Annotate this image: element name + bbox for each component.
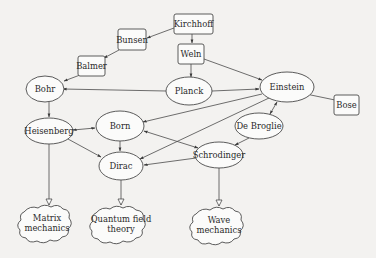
node-label-line-1: Wave bbox=[208, 215, 231, 225]
edge-heisenberg-born bbox=[73, 128, 95, 130]
node-matrix-mechanics[interactable]: Matrix mechanics bbox=[18, 205, 72, 243]
node-label: Bose bbox=[336, 100, 356, 110]
node-label: Born bbox=[110, 121, 131, 131]
edge-einstein-debroglie bbox=[270, 102, 277, 114]
physics-influence-graph: Kirchhoff Bunsen Weln Balmer Bose Bohr P… bbox=[0, 0, 376, 258]
node-label: Dirac bbox=[109, 161, 132, 171]
edge-schrodinger-dirac bbox=[144, 158, 196, 165]
node-label: Bunsen bbox=[116, 35, 148, 45]
node-label-line-2: theory bbox=[107, 224, 135, 234]
node-einstein[interactable]: Einstein bbox=[260, 72, 314, 102]
node-label-line-2: mechanics bbox=[196, 225, 241, 235]
node-label: Planck bbox=[175, 86, 204, 96]
node-label-line-1: Quantum field bbox=[91, 214, 152, 224]
node-bohr[interactable]: Bohr bbox=[26, 76, 64, 102]
node-wave-mechanics[interactable]: Wave mechanics bbox=[190, 207, 244, 245]
node-label: Kirchhoff bbox=[174, 19, 214, 29]
node-label: Schrodinger bbox=[193, 150, 246, 160]
diagram-canvas: Kirchhoff Bunsen Weln Balmer Bose Bohr P… bbox=[0, 0, 376, 258]
node-heisenberg[interactable]: Heisenberg bbox=[24, 118, 74, 144]
edge-kirchhoff-bunsen bbox=[147, 28, 174, 38]
node-label: De Broglie bbox=[236, 121, 281, 131]
node-weln[interactable]: Weln bbox=[178, 44, 204, 64]
node-dirac[interactable]: Dirac bbox=[99, 152, 143, 180]
node-bose[interactable]: Bose bbox=[334, 95, 359, 115]
node-label: Heisenberg bbox=[24, 126, 74, 136]
node-planck[interactable]: Planck bbox=[166, 77, 212, 105]
node-label: Einstein bbox=[270, 82, 305, 92]
edge-planck-bohr bbox=[63, 89, 166, 91]
edge-heisenberg-dirac bbox=[68, 139, 101, 157]
node-schrodinger[interactable]: Schrodinger bbox=[193, 142, 246, 168]
node-balmer[interactable]: Balmer bbox=[76, 56, 107, 76]
node-label-line-1: Matrix bbox=[33, 213, 62, 223]
node-born[interactable]: Born bbox=[96, 111, 144, 141]
node-label-line-2: mechanics bbox=[24, 223, 69, 233]
node-label: Balmer bbox=[76, 61, 107, 71]
node-kirchhoff[interactable]: Kirchhoff bbox=[174, 14, 214, 34]
edge-balmer-bohr bbox=[64, 75, 80, 81]
node-bunsen[interactable]: Bunsen bbox=[116, 29, 148, 50]
edge-debroglie-schrodinger bbox=[235, 138, 249, 145]
node-label: Bohr bbox=[35, 84, 56, 94]
edge-weln-einstein bbox=[204, 59, 262, 80]
edge-bunsen-balmer bbox=[104, 50, 119, 58]
node-debroglie[interactable]: De Broglie bbox=[235, 113, 283, 139]
edge-born-schrodinger bbox=[144, 131, 198, 148]
edge-planck-einstein bbox=[212, 89, 259, 91]
node-label: Weln bbox=[181, 49, 203, 59]
node-quantum-field-theory[interactable]: Quantum field theory bbox=[90, 206, 152, 244]
